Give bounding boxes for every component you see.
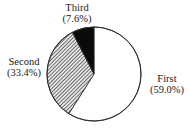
slice-percent-third: (7.6%) (63, 13, 92, 25)
slice-label-third: Third (7.6%) (63, 2, 92, 25)
pie-chart: First (59.0%) Second (33.4%) Third (7.6%… (0, 0, 191, 130)
slice-name-second: Second (9, 56, 41, 67)
slice-percent-first: (59.0%) (150, 84, 185, 96)
slice-label-first: First (59.0%) (150, 73, 185, 96)
slice-name-third: Third (65, 2, 89, 13)
slice-name-first: First (157, 73, 176, 84)
slice-percent-second: (33.4%) (7, 67, 42, 79)
slice-label-second: Second (33.4%) (7, 56, 42, 79)
